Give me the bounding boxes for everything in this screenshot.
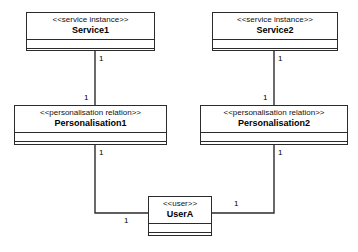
multiplicity-label: 1: [278, 148, 282, 157]
class-name-label: UserA: [152, 209, 208, 220]
uml-attributes-compartment: [15, 133, 166, 142]
class-name-label: Personalisation2: [204, 118, 344, 129]
uml-attributes-compartment: [201, 133, 347, 142]
uml-class-header: <<personalisation relation>> Personalisa…: [201, 106, 347, 133]
class-name-label: Service1: [30, 25, 151, 36]
uml-attributes-compartment: [149, 224, 211, 233]
uml-class-header: <<service instance>> Service1: [27, 13, 154, 40]
uml-class-header: <<personalisation relation>> Personalisa…: [15, 106, 166, 133]
multiplicity-label: 1: [84, 93, 88, 102]
uml-class-header: <<user>> UserA: [149, 197, 211, 224]
uml-class-personalisation2[interactable]: <<personalisation relation>> Personalisa…: [200, 105, 348, 145]
multiplicity-label: 1: [99, 148, 103, 157]
uml-class-header: <<service instance>> Service2: [213, 13, 337, 40]
multiplicity-label: 1: [124, 216, 128, 225]
class-name-label: Personalisation1: [18, 118, 163, 129]
multiplicity-label: 1: [234, 199, 238, 208]
uml-class-diagram: <<service instance>> Service1 <<service …: [0, 0, 358, 252]
uml-operations-compartment: [15, 142, 166, 148]
uml-operations-compartment: [213, 49, 337, 55]
association-line: [212, 145, 274, 213]
multiplicity-label: 1: [99, 54, 103, 63]
uml-operations-compartment: [27, 49, 154, 55]
stereotype-label: <<service instance>>: [30, 15, 151, 25]
uml-class-service2[interactable]: <<service instance>> Service2: [212, 12, 338, 51]
uml-class-service1[interactable]: <<service instance>> Service1: [26, 12, 155, 51]
uml-class-usera[interactable]: <<user>> UserA: [148, 196, 212, 236]
stereotype-label: <<personalisation relation>>: [204, 108, 344, 118]
uml-attributes-compartment: [27, 40, 154, 49]
multiplicity-label: 1: [263, 93, 267, 102]
stereotype-label: <<user>>: [152, 199, 208, 209]
multiplicity-label: 1: [278, 54, 282, 63]
uml-operations-compartment: [149, 233, 211, 239]
stereotype-label: <<service instance>>: [216, 15, 334, 25]
stereotype-label: <<personalisation relation>>: [18, 108, 163, 118]
uml-attributes-compartment: [213, 40, 337, 49]
uml-class-personalisation1[interactable]: <<personalisation relation>> Personalisa…: [14, 105, 167, 145]
class-name-label: Service2: [216, 25, 334, 36]
uml-operations-compartment: [201, 142, 347, 148]
